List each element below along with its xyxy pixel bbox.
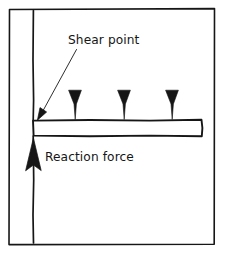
shear-point-diagram: Shear point Reaction force (0, 0, 226, 254)
reaction-force-label: Reaction force (45, 150, 134, 164)
column-line-upper (33, 11, 34, 121)
figure-root: Shear point Reaction force (0, 0, 226, 254)
shear-point-label: Shear point (68, 33, 140, 47)
